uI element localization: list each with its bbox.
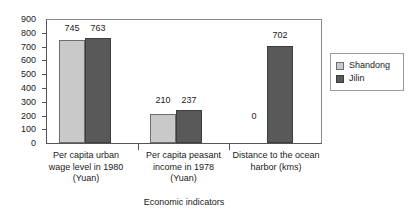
legend: Shandong Jilin — [330, 53, 404, 91]
legend-item-jilin[interactable]: Jilin — [336, 72, 399, 85]
legend-item-shandong[interactable]: Shandong — [336, 59, 399, 72]
x-category-label-line: Distance to the ocean — [221, 150, 331, 162]
x-category-label-line: (Yuan) — [131, 173, 236, 185]
legend-swatch-icon — [336, 75, 344, 83]
legend-swatch-icon — [336, 62, 344, 70]
y-tick-label: 800 — [21, 29, 36, 38]
bar-value-shandong: 0 — [234, 112, 274, 121]
y-tick-label: 500 — [21, 70, 36, 79]
y-tick-label: 700 — [21, 43, 36, 52]
bar-shandong[interactable] — [59, 40, 85, 143]
bar-group: 745 763 — [59, 19, 139, 143]
legend-label: Shandong — [349, 61, 390, 70]
bar-group: 0 702 — [241, 19, 321, 143]
bar-jilin[interactable] — [85, 38, 111, 143]
x-category-label-line: harbor (kms) — [221, 162, 331, 174]
bar-chart-figure: 900 800 700 600 500 400 300 200 100 0 74… — [0, 0, 416, 221]
y-tick-label: 600 — [21, 56, 36, 65]
bars-layer: 745 763 210 237 0 702 — [47, 19, 321, 143]
x-category-label-line: wage level in 1980 — [32, 162, 140, 174]
x-axis-title: Economic indicators — [46, 197, 322, 208]
y-tick-label: 400 — [21, 84, 36, 93]
bar-group: 210 237 — [150, 19, 230, 143]
bar-value-jilin: 237 — [169, 96, 209, 105]
x-category-label-line: (Yuan) — [32, 173, 140, 185]
x-category-label-line: Per capita urban — [32, 150, 140, 162]
y-tick-label: 0 — [31, 139, 36, 148]
bar-shandong[interactable] — [150, 114, 176, 143]
y-axis: 900 800 700 600 500 400 300 200 100 0 — [0, 19, 42, 144]
bar-jilin[interactable] — [176, 110, 202, 143]
bar-value-jilin: 702 — [260, 31, 300, 40]
legend-label: Jilin — [349, 74, 365, 83]
y-tick-label: 300 — [21, 98, 36, 107]
y-tick-label: 900 — [21, 15, 36, 24]
x-category-label-3: Distance to the ocean harbor (kms) — [221, 150, 331, 173]
y-tick-label: 200 — [21, 112, 36, 121]
bar-jilin[interactable] — [267, 46, 293, 143]
x-category-label-1: Per capita urban wage level in 1980 (Yua… — [32, 150, 140, 185]
bar-value-jilin: 763 — [78, 24, 118, 33]
y-tick-label: 100 — [21, 125, 36, 134]
